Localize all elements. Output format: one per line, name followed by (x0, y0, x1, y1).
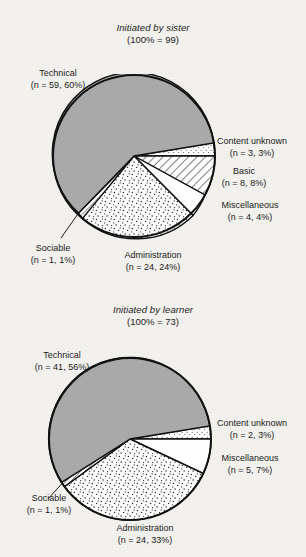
pie-chart-learner: Initiated by learner (100% = 73) (0, 280, 306, 557)
label-administration: Administration (n = 24, 24%) (98, 250, 208, 273)
chart-title-sister: Initiated by sister (0, 22, 306, 33)
label-miscellaneous: Miscellaneous (n = 4, 4%) (198, 200, 302, 223)
label-sociable: Sociable (n = 1, 1%) (0, 493, 98, 516)
chart-title-learner: Initiated by learner (0, 304, 306, 315)
leader-line-sociable (61, 215, 78, 239)
label-sociable: Sociable (n = 1, 1%) (4, 243, 102, 266)
chart-subtitle-learner: (100% = 73) (0, 316, 306, 327)
pie-chart-sister: Initiated by sister (100% = 99) (0, 0, 306, 280)
label-basic: Basic (n = 8, 8%) (198, 166, 290, 189)
pie-graphic-sister (50, 74, 218, 240)
label-content-unknown: Content unknown (n = 3, 3%) (198, 136, 306, 159)
label-administration: Administration (n = 24, 33%) (90, 523, 200, 546)
label-technical: Technical (n = 41, 56%) (10, 350, 114, 373)
chart-subtitle-sister: (100% = 99) (0, 34, 306, 45)
label-content-unknown: Content unknown (n = 2, 3%) (198, 418, 306, 441)
label-miscellaneous: Miscellaneous (n = 5, 7%) (198, 453, 302, 476)
label-technical: Technical (n = 59, 60%) (6, 68, 110, 91)
